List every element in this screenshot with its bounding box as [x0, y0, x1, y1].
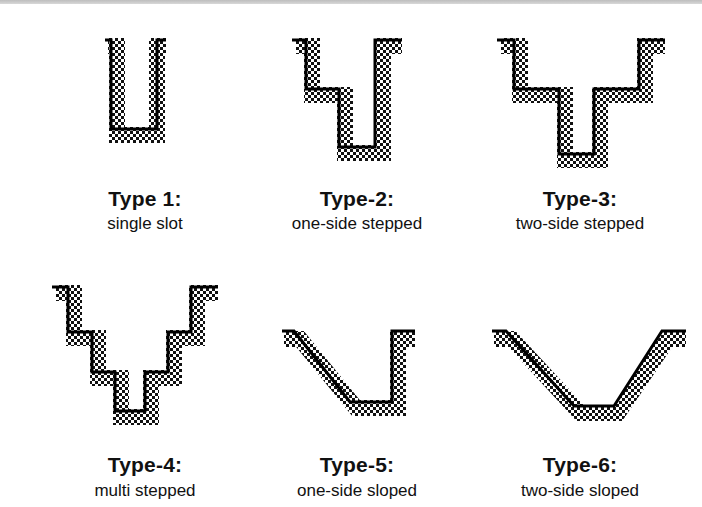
type-2-title: Type-2:: [247, 187, 467, 211]
two-side-stepped-diagram: [495, 35, 670, 180]
type-3-title: Type-3:: [470, 187, 690, 211]
type-6-label: two-side sloped: [470, 481, 690, 501]
one-side-sloped-diagram: [280, 320, 425, 430]
one-side-stepped-diagram: [290, 35, 420, 170]
type-5-label: one-side sloped: [247, 481, 467, 501]
type-4-title: Type-4:: [35, 453, 255, 477]
two-side-sloped-diagram: [490, 320, 690, 430]
type-1-label: single slot: [35, 214, 255, 234]
type-5-title: Type-5:: [247, 453, 467, 477]
top-border-line: [0, 0, 702, 4]
type-3-label: two-side stepped: [470, 214, 690, 234]
multi-stepped-diagram: [50, 282, 230, 427]
type-4-label: multi stepped: [35, 481, 255, 501]
type-1-title: Type 1:: [35, 187, 255, 211]
type-6-title: Type-6:: [470, 453, 690, 477]
single-slot-diagram: [100, 35, 175, 150]
type-2-label: one-side stepped: [247, 214, 467, 234]
